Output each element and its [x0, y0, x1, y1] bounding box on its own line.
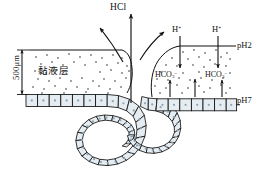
- label-ph-cell-surface: pH7: [237, 96, 252, 105]
- label-h-ion-right: H+: [212, 25, 221, 34]
- label-h-ion-right-charge: +: [218, 25, 221, 31]
- label-h-ion-left: H+: [172, 25, 181, 34]
- label-h-ion-left-charge: +: [178, 25, 181, 31]
- label-hcl: HCl: [110, 3, 126, 13]
- cell-row-left: [26, 95, 119, 108]
- label-bicarbonate-left-base: HCO: [155, 70, 172, 79]
- label-mucus-layer: 黏液层: [38, 66, 69, 76]
- label-bicarbonate-right-sup: −: [224, 71, 227, 76]
- label-bicarbonate-right-base: HCO: [205, 70, 222, 79]
- label-thickness: 500μm: [12, 55, 21, 80]
- label-ph-lumen: pH2: [237, 41, 252, 50]
- label-bicarbonate-left-sup: −: [174, 71, 177, 76]
- hcl-arrow-right: [140, 32, 164, 60]
- gastric-mucosa-diagram: [0, 0, 262, 183]
- epithelial-cell-layer: [26, 95, 237, 166]
- label-bicarbonate-right: HCO3−: [205, 71, 227, 80]
- figure-canvas: HCl H+ H+ HCO3− HCO3− pH2 pH7 黏液层 500μm: [0, 0, 262, 183]
- label-bicarbonate-left: HCO3−: [155, 71, 177, 80]
